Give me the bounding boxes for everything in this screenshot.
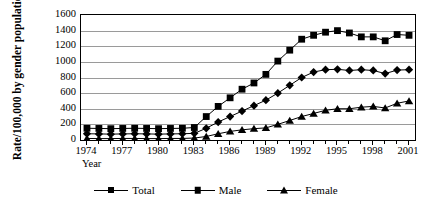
legend-label: Female — [305, 184, 337, 196]
y-axis-tick-label: 1400 — [42, 25, 76, 35]
series-svg — [81, 15, 415, 140]
x-axis-tick — [313, 140, 314, 144]
x-axis-tick-label: 1992 — [290, 145, 311, 157]
plot-area — [80, 14, 416, 141]
x-axis-tick — [384, 140, 385, 144]
y-axis-tick-label: 400 — [42, 103, 76, 113]
x-axis-tick-label: 1983 — [183, 145, 204, 157]
x-axis-tick — [110, 140, 111, 144]
x-axis-tick-label: 1995 — [326, 145, 347, 157]
x-axis-tick — [325, 140, 326, 144]
y-axis-tick-labels: 16001400120010008006004002000 — [40, 14, 76, 139]
x-axis-tick — [241, 140, 242, 144]
x-axis-tick — [277, 140, 278, 144]
x-axis-tick — [181, 140, 182, 144]
x-axis-tick-label: 1980 — [147, 145, 168, 157]
y-axis-tick-label: 1200 — [42, 40, 76, 50]
legend-item-female[interactable]: Female — [267, 184, 337, 196]
x-axis-title: Year — [82, 158, 101, 170]
y-axis-tick-label: 0 — [42, 134, 76, 144]
y-axis-tick-label: 1000 — [42, 56, 76, 66]
y-axis-tick-label: 200 — [42, 118, 76, 128]
legend-marker-diamond-icon — [94, 184, 128, 196]
legend-marker-shape — [108, 187, 114, 193]
legend-item-total[interactable]: Total — [94, 184, 154, 196]
x-axis-tick — [348, 140, 349, 144]
series-male — [84, 27, 413, 132]
y-axis-tick-label: 600 — [42, 87, 76, 97]
legend-item-male[interactable]: Male — [181, 184, 242, 196]
x-axis-tick — [169, 140, 170, 144]
y-axis-title: Rate/100,000 by gender population — [0, 0, 36, 150]
x-axis-tick — [134, 140, 135, 144]
x-axis-tick — [146, 140, 147, 144]
x-axis-tick-label: 1974 — [75, 145, 96, 157]
y-axis-title-text: Rate/100,000 by gender population — [11, 0, 24, 161]
x-axis-tick — [205, 140, 206, 144]
legend-marker-triangle-icon — [267, 184, 301, 196]
x-axis-tick — [396, 140, 397, 144]
x-axis-tick — [289, 140, 290, 144]
x-axis-tick-label: 1977 — [111, 145, 132, 157]
legend-label: Total — [132, 184, 154, 196]
x-axis-tick — [217, 140, 218, 144]
x-axis-tick-label: 1998 — [362, 145, 383, 157]
x-axis-tick — [253, 140, 254, 144]
x-axis-tick — [98, 140, 99, 144]
data-series-layer — [81, 15, 415, 140]
legend-marker-shape — [280, 187, 288, 194]
chart-legend: TotalMaleFemale — [0, 182, 432, 198]
y-axis-tick-label: 1600 — [42, 9, 76, 19]
legend-marker-shape — [194, 187, 201, 194]
x-axis-tick — [360, 140, 361, 144]
legend-label: Male — [219, 184, 242, 196]
x-axis-tick-label: 1989 — [254, 145, 275, 157]
legend-marker-square-icon — [181, 184, 215, 196]
y-axis-tick-label: 800 — [42, 72, 76, 82]
x-axis-tick-label: 1986 — [219, 145, 240, 157]
chart-figure: Rate/100,000 by gender population 160014… — [0, 0, 432, 205]
x-axis-tick-labels: 1974197719801983198619891992199519982001 — [80, 145, 414, 159]
x-axis-tick-label: 2001 — [398, 145, 419, 157]
